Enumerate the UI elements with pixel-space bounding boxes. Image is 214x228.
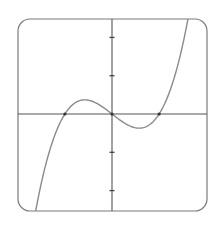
cubic-function-plot: [0, 0, 214, 228]
root-point: [158, 112, 161, 115]
root-point: [110, 112, 113, 115]
root-point: [63, 112, 66, 115]
